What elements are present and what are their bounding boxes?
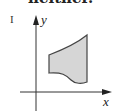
coordinate-plot (0, 0, 119, 111)
x-axis-label: x (103, 95, 109, 108)
shaded-region (49, 35, 87, 83)
y-axis-arrow-icon (33, 15, 39, 25)
figure: neither. I y x (0, 0, 119, 111)
y-axis-label: y (41, 13, 47, 26)
